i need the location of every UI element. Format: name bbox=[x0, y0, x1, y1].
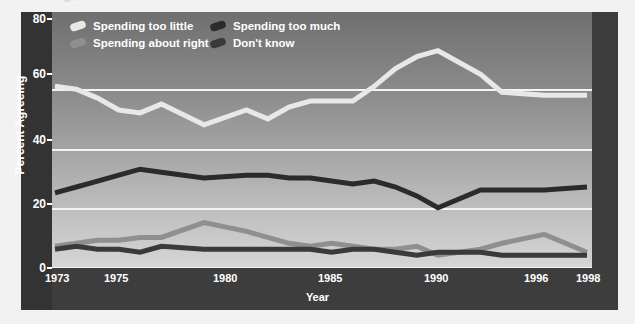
y-tick-label-80: 80 bbox=[0, 13, 46, 25]
x-tick-label-1996: 1996 bbox=[524, 272, 548, 284]
x-tick-label-1998: 1998 bbox=[576, 272, 600, 284]
x-tick-label-1990: 1990 bbox=[424, 272, 448, 284]
x-tick-label-1973: 1973 bbox=[45, 272, 69, 284]
legend-swatch-icon-dont-know bbox=[209, 37, 227, 50]
x-axis-title: Year bbox=[0, 291, 635, 303]
series-line-spending-too-little bbox=[55, 51, 587, 125]
legend-label-dont-know: Don't know bbox=[233, 37, 295, 49]
clipped-title-remnant: "" . bbox=[64, 0, 584, 7]
y-tick-label-0: 0 bbox=[0, 262, 46, 274]
x-tick-label-1980: 1980 bbox=[213, 272, 237, 284]
legend-label-about-right: Spending about right bbox=[93, 37, 209, 49]
y-axis-title: Percent Agreeing bbox=[13, 60, 27, 190]
series-line-spending-too-much bbox=[55, 169, 587, 208]
chart-screenshot: "" . 0 20 40 60 80 Percent Agreeing bbox=[0, 0, 635, 324]
legend-label-too-much: Spending too much bbox=[233, 20, 340, 32]
x-tick-label-1975: 1975 bbox=[104, 272, 128, 284]
legend-swatch-icon-too-little bbox=[69, 20, 87, 33]
series-line-dont-know bbox=[55, 246, 587, 255]
legend-row-2: Spending about right Don't know bbox=[70, 37, 370, 49]
legend-item-dont-know: Don't know bbox=[210, 37, 295, 49]
legend-item-spending-too-much: Spending too much bbox=[210, 20, 340, 32]
legend-row-1: Spending too little Spending too much bbox=[70, 20, 370, 32]
legend-item-spending-too-little: Spending too little bbox=[70, 20, 210, 32]
legend-item-spending-about-right: Spending about right bbox=[70, 37, 210, 49]
x-tick-label-1985: 1985 bbox=[318, 272, 342, 284]
legend-label-too-little: Spending too little bbox=[93, 20, 193, 32]
y-tick-label-20: 20 bbox=[0, 198, 46, 210]
legend-swatch-icon-about-right bbox=[69, 37, 87, 50]
legend-swatch-icon-too-much bbox=[209, 20, 227, 33]
legend: Spending too little Spending too much Sp… bbox=[70, 20, 370, 54]
